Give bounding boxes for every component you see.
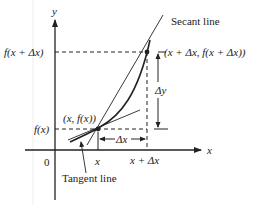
secant-tangent-diagram: y x 0 f(x + Δx) f(x) x x + Δx (x, f(x)) …: [0, 0, 260, 205]
tangent-line-label: Tangent line: [62, 172, 117, 184]
point-x-fx-label: (x, f(x)): [63, 112, 96, 125]
delta-x-label: Δx: [115, 133, 127, 145]
f-x-plus-dx-label: f(x + Δx): [4, 46, 44, 59]
point-x-dx-label: (x + Δx, f(x + Δx)): [164, 46, 246, 59]
x-plus-dx-tick-label: x + Δx: [129, 154, 159, 166]
y-axis-label: y: [51, 5, 57, 17]
x-axis-label: x: [206, 144, 212, 156]
point-x-fx: [96, 127, 101, 132]
secant-line: [87, 15, 163, 145]
tangent-pointer: [81, 142, 86, 173]
origin-label: 0: [44, 156, 50, 168]
x-tick-label: x: [94, 155, 100, 167]
secant-line-label: Secant line: [171, 15, 220, 27]
delta-y-label: Δy: [154, 84, 166, 96]
f-x-label: f(x): [34, 123, 50, 136]
function-curve: [70, 40, 150, 142]
point-x-dx: [145, 50, 150, 55]
